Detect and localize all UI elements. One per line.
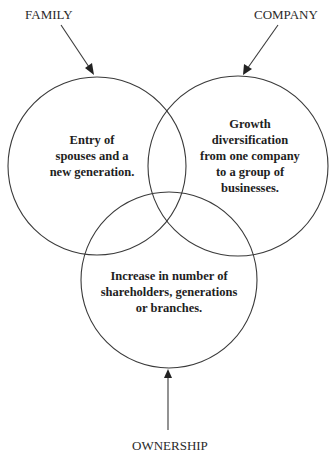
svg-text:diversification: diversification [212,133,288,147]
ownership-description: Increase in number of shareholders, gene… [101,269,238,315]
company-arrow-icon [243,25,278,75]
svg-text:Growth: Growth [229,117,270,131]
ownership-label: OWNERSHIP [132,438,208,453]
svg-text:to a group of: to a group of [216,165,285,179]
ownership-arrow-icon [164,369,172,430]
svg-text:new generation.: new generation. [50,165,135,179]
svg-text:spouses and a: spouses and a [56,149,130,163]
svg-text:Entry of: Entry of [70,133,116,147]
family-label: FAMILY [25,7,73,22]
venn-diagram: FAMILY COMPANY OWNERSHIP Entry of spouse… [0,0,333,463]
svg-text:or branches.: or branches. [136,301,202,315]
family-arrow-icon [61,25,94,75]
company-label: COMPANY [254,7,318,22]
svg-text:Increase in number of: Increase in number of [110,269,228,283]
family-description: Entry of spouses and a new generation. [50,133,135,179]
svg-text:shareholders, generations: shareholders, generations [101,285,238,299]
company-description: Growth diversification from one company … [200,117,301,195]
svg-text:from one company: from one company [200,149,301,163]
svg-text:businesses.: businesses. [221,181,279,195]
